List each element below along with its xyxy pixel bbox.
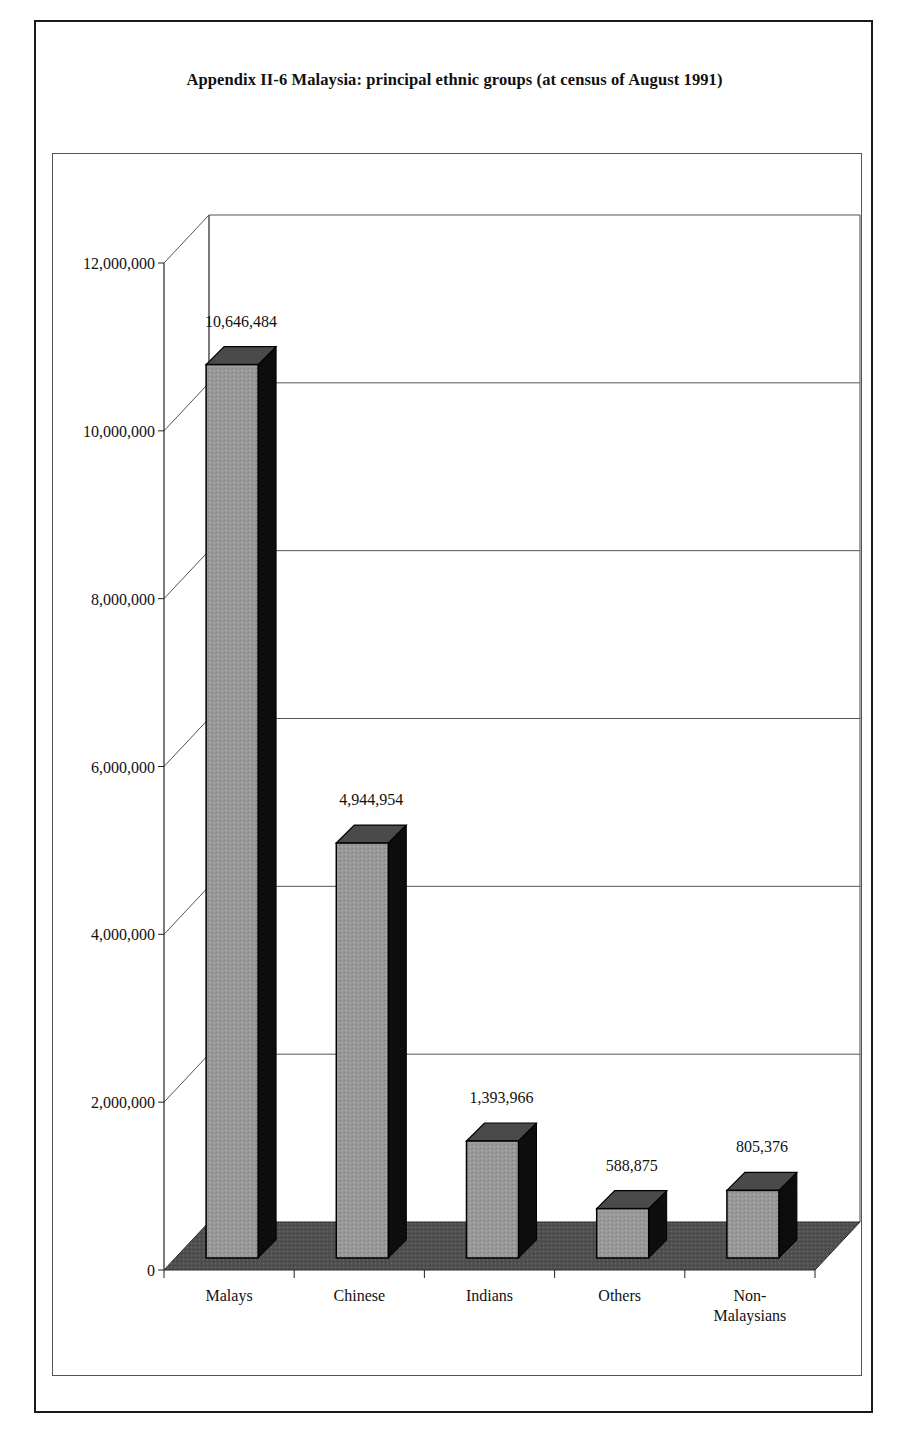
y-tick-label: 4,000,000 [91,926,155,943]
y-tick-label: 8,000,000 [91,591,155,608]
y-tick-label: 6,000,000 [91,759,155,776]
category-label: Malays [206,1287,253,1305]
bars [206,347,797,1258]
value-label: 805,376 [736,1138,788,1155]
y-tick-label: 12,000,000 [83,255,155,272]
value-label: 10,646,484 [205,313,277,330]
bar-chart: 02,000,0004,000,0006,000,0008,000,00010,… [0,0,909,1450]
category-label: Malaysians [713,1307,786,1325]
bar-others [597,1191,667,1258]
category-label: Chinese [334,1287,386,1304]
category-label: Others [598,1287,641,1304]
value-label: 588,875 [606,1157,658,1174]
category-label: Indians [466,1287,513,1304]
value-label: 1,393,966 [470,1089,534,1106]
value-label: 4,944,954 [339,791,403,808]
y-tick-label: 2,000,000 [91,1094,155,1111]
bar-malays [206,347,276,1258]
bar-non-malaysians [727,1172,797,1258]
axes: 02,000,0004,000,0006,000,0008,000,00010,… [83,255,815,1279]
y-tick-label: 10,000,000 [83,423,155,440]
y-tick-label: 0 [147,1262,155,1279]
bar-chinese [336,825,406,1258]
category-label: Non- [733,1287,766,1304]
bar-indians [467,1123,537,1258]
